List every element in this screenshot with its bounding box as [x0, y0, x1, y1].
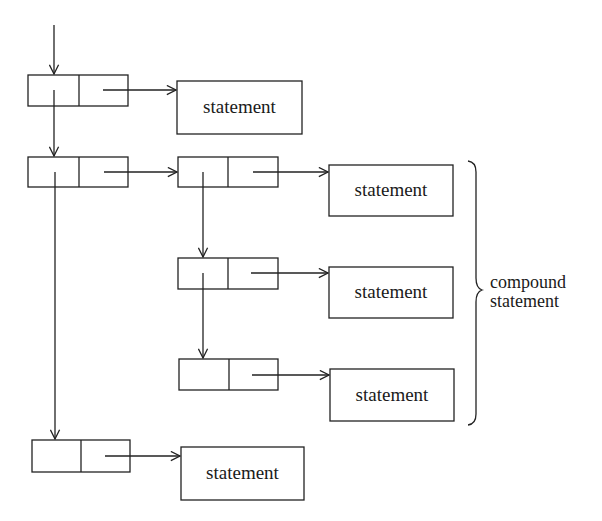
statement-label: statement: [356, 384, 430, 405]
statement-label: statement: [355, 281, 429, 302]
statement-box-2: statement: [329, 165, 453, 216]
statement-box-1: statement: [177, 81, 302, 134]
statement-label: statement: [203, 96, 277, 117]
statement-box-5: statement: [181, 447, 304, 500]
statement-label: statement: [206, 462, 280, 483]
statement-box-3: statement: [329, 267, 453, 318]
linked-list-diagram: statement statement statement statement: [0, 0, 602, 521]
statement-box-4: statement: [330, 369, 454, 421]
compound-label-line1: compound: [490, 272, 566, 292]
curly-brace-icon: [468, 161, 482, 425]
compound-label-line2: statement: [490, 291, 559, 311]
statement-label: statement: [355, 179, 429, 200]
